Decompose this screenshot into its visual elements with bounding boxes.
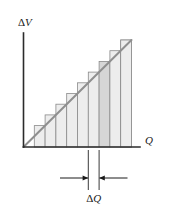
bar-1 <box>34 126 45 147</box>
delta-q-label: ΔQ <box>86 192 101 204</box>
delta-q-left-arrow-head <box>83 175 89 180</box>
bar-group <box>34 40 131 147</box>
x-axis-label: Q <box>145 134 153 146</box>
physics-figure-delta-v-vs-q: ΔV Q ΔQ <box>0 0 170 208</box>
bar-6 <box>88 72 99 147</box>
figure-container: ΔV Q ΔQ <box>0 0 170 208</box>
bar-8 <box>110 51 121 147</box>
y-axis-label: ΔV <box>18 16 33 28</box>
bar-7-highlighted <box>99 61 110 147</box>
bar-10 <box>121 40 132 147</box>
delta-q-dimension-group: ΔQ <box>60 150 128 204</box>
delta-q-right-arrow-head <box>99 175 105 180</box>
